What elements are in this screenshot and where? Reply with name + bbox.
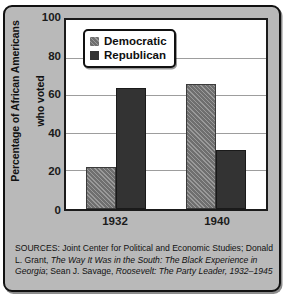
y-tick-label: 40 [31, 127, 61, 138]
y-axis-title-line1: Percentage of African Americans [9, 3, 22, 199]
sources-line-3-plain: ; Sean J. Savage, [46, 266, 116, 276]
republican-swatch-icon [90, 51, 99, 60]
y-tick-label: 80 [31, 50, 61, 61]
plot-block: Percentage of African Americans who vote… [5, 7, 283, 239]
sources-line-1: SOURCES: Joint Center for Political and … [15, 243, 273, 255]
x-tick-label: 1940 [186, 215, 248, 227]
bar-democratic-1940 [186, 84, 216, 209]
x-tick-label: 1932 [84, 215, 146, 227]
sources-line-2: L. Grant, The Way It Was in the South: T… [15, 255, 273, 267]
bar-republican-1932 [116, 88, 146, 209]
legend-item-democratic: Democratic [90, 34, 167, 48]
sources-line-2-plain: L. Grant, [15, 255, 51, 265]
y-tick-label: 0 [31, 205, 61, 216]
bar-group-1940 [186, 20, 246, 209]
sources-line-3: Georgia; Sean J. Savage, Roosevelt: The … [15, 266, 273, 278]
democratic-swatch-icon [90, 37, 99, 46]
y-axis-tick-labels: 100 80 60 40 20 0 [31, 17, 61, 210]
sources-line-3-title-b: Roosevelt: The Party Leader, 1932–1945 [116, 266, 273, 276]
chart-figure: Percentage of African Americans who vote… [3, 5, 281, 292]
legend: Democratic Republican [83, 29, 176, 68]
bar-democratic-1932 [86, 167, 116, 209]
bar-republican-1940 [216, 150, 246, 209]
x-axis-tick-labels: 1932 1940 [64, 215, 268, 227]
y-tick-label: 100 [31, 12, 61, 23]
y-tick-label: 60 [31, 89, 61, 100]
sources-note: SOURCES: Joint Center for Political and … [15, 243, 273, 278]
legend-label-republican: Republican [104, 49, 166, 61]
legend-item-republican: Republican [90, 48, 167, 62]
y-tick-label: 20 [31, 166, 61, 177]
legend-label-democratic: Democratic [104, 35, 167, 47]
sources-line-2-title: The Way It Was in the South: The Black E… [51, 255, 258, 265]
sources-line-3-title-a: Georgia [15, 266, 46, 276]
